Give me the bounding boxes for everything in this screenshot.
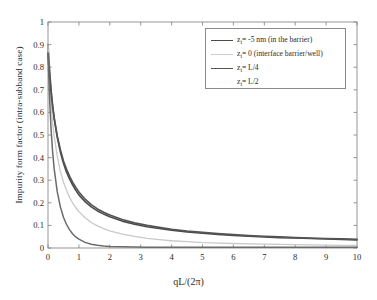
legend: zi= -5 nm (in the barrier)zi= 0 (interfa… bbox=[205, 28, 346, 89]
x-tick-label: 3 bbox=[130, 252, 152, 262]
legend-line-swatch bbox=[211, 68, 233, 69]
y-tick-label: 0.3 bbox=[20, 175, 44, 185]
y-tick-label: 0.4 bbox=[20, 153, 44, 163]
legend-label: zi= 0 (interface barrier/well) bbox=[237, 49, 323, 59]
y-tick-label: 1 bbox=[20, 17, 44, 27]
x-tick-label: 6 bbox=[222, 252, 244, 262]
legend-item: zi= 0 (interface barrier/well) bbox=[206, 47, 347, 61]
legend-line-swatch bbox=[211, 40, 233, 41]
x-tick-label: 1 bbox=[68, 252, 90, 262]
x-tick-label: 9 bbox=[315, 252, 337, 262]
legend-line-swatch bbox=[211, 82, 233, 83]
y-tick-label: 0 bbox=[20, 243, 44, 253]
legend-label: zi= L/2 bbox=[237, 77, 259, 87]
y-tick-label: 0.8 bbox=[20, 62, 44, 72]
y-tick-label: 0.2 bbox=[20, 198, 44, 208]
x-tick-label: 8 bbox=[284, 252, 306, 262]
x-tick-label: 0 bbox=[37, 252, 59, 262]
legend-item: zi= -5 nm (in the barrier) bbox=[206, 33, 347, 47]
y-tick-label: 0.7 bbox=[20, 85, 44, 95]
y-tick-label: 0.1 bbox=[20, 220, 44, 230]
y-tick-label: 0.5 bbox=[20, 130, 44, 140]
x-tick-label: 4 bbox=[161, 252, 183, 262]
x-tick-label: 10 bbox=[346, 252, 368, 262]
legend-label: zi= -5 nm (in the barrier) bbox=[237, 35, 312, 45]
y-tick-label: 0.9 bbox=[20, 40, 44, 50]
x-axis-label: qL/(2π) bbox=[0, 276, 377, 287]
y-tick-label: 0.6 bbox=[20, 107, 44, 117]
legend-line-swatch bbox=[211, 54, 233, 55]
x-tick-label: 5 bbox=[192, 252, 214, 262]
legend-item: zi= L/2 bbox=[206, 75, 347, 89]
legend-label: zi= L/4 bbox=[237, 63, 259, 73]
x-tick-label: 2 bbox=[99, 252, 121, 262]
x-tick-label: 7 bbox=[253, 252, 275, 262]
legend-item: zi= L/4 bbox=[206, 61, 347, 75]
